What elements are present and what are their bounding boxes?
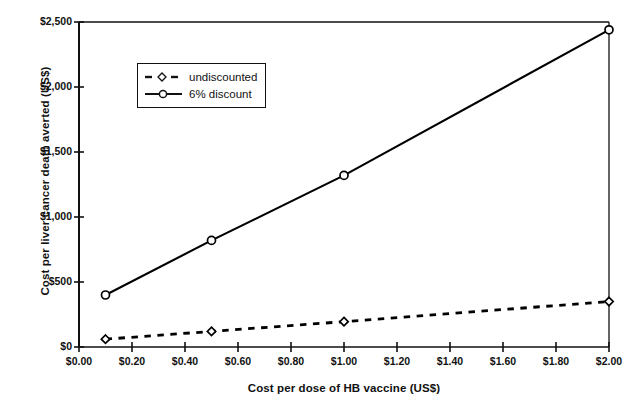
x-tick-label: $2.00 <box>577 355 638 367</box>
data-point-marker <box>208 236 216 244</box>
data-point-marker <box>207 327 215 335</box>
legend-item-discount: 6% discount <box>144 85 257 102</box>
x-axis-title: Cost per dose of HB vaccine (US$) <box>79 382 609 394</box>
data-point-marker <box>102 291 110 299</box>
data-point-marker <box>101 335 109 343</box>
data-point-marker <box>605 297 613 305</box>
circle-marker-icon <box>144 87 186 101</box>
chart-legend: undiscounted 6% discount <box>137 63 266 108</box>
legend-item-undiscounted: undiscounted <box>144 68 257 85</box>
diamond-marker-icon <box>144 70 186 84</box>
y-axis-title: Cost per liver cancer death averted (US$… <box>39 16 51 346</box>
chart-figure: $0$500$1,000$1,500$2,000$2,500 $0.00$0.2… <box>0 0 638 416</box>
series-undiscounted <box>101 297 613 343</box>
data-point-marker <box>605 26 613 34</box>
data-point-marker <box>340 171 348 179</box>
x-axis-tick-labels: $0.00$0.20$0.40$0.60$0.80$1.00$1.20$1.40… <box>0 355 638 375</box>
legend-label: 6% discount <box>189 88 252 100</box>
legend-label: undiscounted <box>189 71 257 83</box>
plot-area <box>0 0 638 416</box>
data-point-marker <box>340 317 348 325</box>
